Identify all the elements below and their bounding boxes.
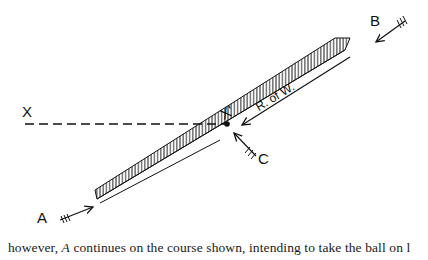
caption-post: continues on the course shown, intending… bbox=[70, 240, 410, 255]
caption-italic: A bbox=[62, 240, 70, 255]
arrow-c bbox=[234, 133, 256, 159]
label-x: X bbox=[22, 103, 32, 120]
label-a: A bbox=[37, 209, 47, 226]
caption-text: however, A continues on the course shown… bbox=[8, 240, 428, 256]
caption-pre: however, bbox=[8, 240, 62, 255]
hatched-strip bbox=[95, 38, 350, 203]
arrow-a bbox=[60, 207, 93, 223]
arrow-b bbox=[376, 16, 407, 42]
label-b: B bbox=[370, 12, 380, 29]
cricket-field-diagram: X X' R. of W. B C A bbox=[0, 0, 428, 235]
label-c: C bbox=[258, 150, 269, 167]
